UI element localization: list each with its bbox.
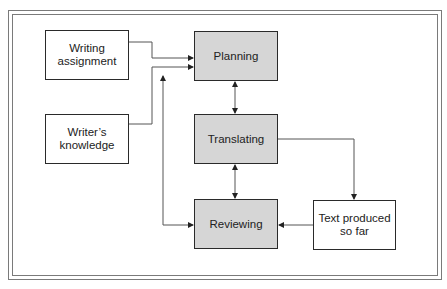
edge-writing-assignment-planning bbox=[129, 42, 193, 58]
node-planning: Planning bbox=[194, 31, 278, 81]
node-label: Translating bbox=[208, 133, 264, 146]
node-translating: Translating bbox=[194, 114, 278, 164]
node-label-line: Text produced bbox=[318, 212, 390, 225]
node-label-line: knowledge bbox=[60, 139, 115, 152]
node-writing-assignment: Writing assignment bbox=[45, 30, 129, 80]
node-label-line: Writing bbox=[58, 42, 117, 55]
node-label-line: assignment bbox=[58, 55, 117, 68]
edge-translating-text bbox=[277, 139, 354, 199]
node-writers-knowledge: Writer’s knowledge bbox=[45, 114, 129, 164]
node-label-line: so far bbox=[318, 225, 390, 238]
node-text-produced: Text produced so far bbox=[313, 200, 396, 250]
edge-reviewing-planning bbox=[163, 76, 193, 225]
node-reviewing: Reviewing bbox=[194, 199, 278, 249]
node-label: Reviewing bbox=[209, 218, 262, 231]
edge-writers-knowledge-planning bbox=[129, 67, 193, 124]
node-label-line: Writer’s bbox=[60, 126, 115, 139]
node-label: Planning bbox=[214, 50, 259, 63]
